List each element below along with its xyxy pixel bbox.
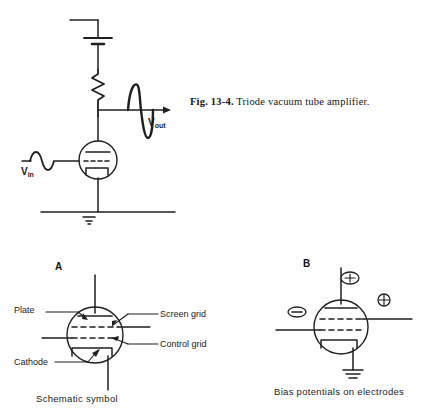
panel-b-cathode (321, 340, 357, 348)
ground-symbol (83, 217, 95, 224)
figure-artwork (0, 0, 425, 418)
panel-a-caption: Schematic symbol (36, 393, 118, 404)
label-control-grid: Control grid (160, 339, 207, 349)
panel-b-caption: Bias potentials on electrodes (274, 386, 404, 397)
tube-cathode (86, 168, 108, 175)
figure-page: Fig. 13-4. Triode vacuum tube amplifier.… (0, 0, 425, 418)
panel-b-artwork (276, 268, 412, 378)
v-out-symbol: V (148, 117, 155, 128)
v-in-symbol: V (21, 166, 28, 177)
label-plate: Plate (14, 305, 35, 315)
panel-b-plate-polarity (341, 272, 359, 284)
panel-a-cathode (72, 348, 112, 356)
figure-caption-text: Triode vacuum tube amplifier. (236, 96, 369, 107)
panel-b-letter: B (303, 258, 310, 269)
v-out-label: Vout (148, 117, 166, 129)
panel-a-artwork (42, 275, 158, 390)
panel-a-letter: A (55, 261, 62, 272)
resistor-symbol (92, 70, 104, 116)
tube-envelope (79, 141, 117, 179)
v-in-label: Vin (21, 166, 34, 178)
panel-b-ground-symbol (343, 370, 363, 378)
battery-symbol (84, 38, 112, 70)
output-sine-wave (128, 84, 153, 138)
v-out-subscript: out (155, 122, 166, 129)
label-screen-grid: Screen grid (160, 309, 206, 319)
v-in-subscript: in (28, 171, 34, 178)
figure-caption-number: Fig. 13-4. (190, 96, 234, 107)
figure-caption: Fig. 13-4. Triode vacuum tube amplifier. (190, 96, 369, 107)
panel-b-screen-polarity (378, 294, 390, 306)
output-axis (98, 107, 171, 114)
label-cathode: Cathode (14, 357, 48, 367)
panel-a-leader-lines (46, 312, 158, 362)
panel-b-control-polarity (288, 307, 306, 317)
